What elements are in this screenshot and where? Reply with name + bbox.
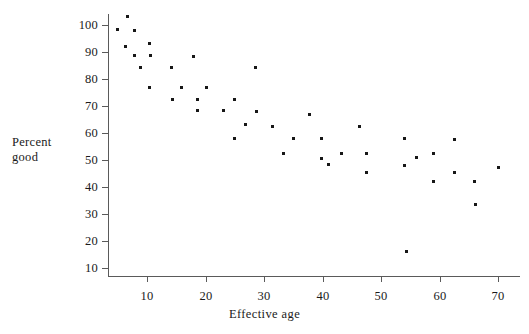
x-tick-label-text: 10 <box>141 289 154 303</box>
x-axis-line <box>108 276 520 277</box>
x-tick-label: 30 <box>244 286 284 300</box>
x-tick-label: 20 <box>186 286 226 300</box>
y-tick-mark <box>102 133 109 134</box>
y-tick-label: 80 <box>60 73 98 86</box>
y-tick-label: 40 <box>60 181 98 194</box>
data-point <box>320 157 323 160</box>
data-point <box>139 66 142 69</box>
y-tick-label: 30 <box>60 208 98 221</box>
scatter-plot-figure: 102030405060708090100 10203040506070 Per… <box>0 0 529 334</box>
data-point <box>453 138 456 141</box>
data-point <box>282 152 285 155</box>
x-tick-label-text: 60 <box>434 289 447 303</box>
x-tick-mark <box>381 276 382 282</box>
data-point <box>192 55 195 58</box>
y-tick-label: 70 <box>60 100 98 113</box>
data-point <box>171 98 174 101</box>
x-tick-label-text: 20 <box>200 289 213 303</box>
y-tick-label-text: 20 <box>64 235 98 248</box>
y-tick-mark <box>102 214 109 215</box>
y-tick-mark <box>102 160 109 161</box>
data-point <box>271 125 274 128</box>
x-tick-label: 10 <box>127 286 167 300</box>
x-tick-label-text: 70 <box>492 289 505 303</box>
data-point <box>126 15 129 18</box>
data-point <box>327 163 330 166</box>
data-point <box>453 171 456 174</box>
y-tick-mark <box>102 241 109 242</box>
x-tick-mark <box>323 276 324 282</box>
data-point <box>365 171 368 174</box>
data-point <box>222 109 225 112</box>
x-tick-mark <box>147 276 148 282</box>
data-point <box>403 137 406 140</box>
data-point <box>432 152 435 155</box>
y-tick-label-text: 30 <box>64 208 98 221</box>
x-tick-label-text: 30 <box>258 289 271 303</box>
y-tick-mark <box>102 52 109 53</box>
data-point <box>148 86 151 89</box>
y-tick-label-text: 90 <box>64 46 98 59</box>
x-tick-mark <box>206 276 207 282</box>
x-tick-label: 50 <box>361 286 401 300</box>
x-tick-mark <box>498 276 499 282</box>
y-tick-label: 100 <box>60 19 98 32</box>
plot-area: 102030405060708090100 10203040506070 Per… <box>0 0 529 334</box>
x-tick-label: 40 <box>303 286 343 300</box>
y-tick-mark <box>102 106 109 107</box>
x-tick-mark <box>264 276 265 282</box>
y-tick-label-text: 10 <box>64 262 98 275</box>
data-point <box>196 98 199 101</box>
y-tick-mark <box>102 268 109 269</box>
data-point <box>474 203 477 206</box>
y-tick-label-text: 70 <box>64 100 98 113</box>
data-point <box>415 156 418 159</box>
data-point <box>196 109 199 112</box>
data-point <box>405 250 408 253</box>
y-tick-label: 10 <box>60 262 98 275</box>
y-tick-mark <box>102 187 109 188</box>
data-point <box>403 164 406 167</box>
x-tick-mark <box>440 276 441 282</box>
data-point <box>308 113 311 116</box>
y-axis-title-line1: Percent <box>12 135 74 150</box>
y-tick-label: 20 <box>60 235 98 248</box>
data-point <box>254 66 257 69</box>
x-tick-label-text: 50 <box>375 289 388 303</box>
y-tick-label-text: 100 <box>64 19 98 32</box>
data-point <box>233 98 236 101</box>
data-point <box>133 54 136 57</box>
data-point <box>292 137 295 140</box>
data-point <box>149 54 152 57</box>
data-point <box>358 125 361 128</box>
y-tick-label-text: 80 <box>64 73 98 86</box>
data-point <box>233 137 236 140</box>
data-point <box>205 86 208 89</box>
y-axis-title-line2: good <box>12 150 74 165</box>
data-point <box>244 123 247 126</box>
y-tick-label-text: 40 <box>64 181 98 194</box>
y-tick-mark <box>102 25 109 26</box>
y-tick-label: 90 <box>60 46 98 59</box>
data-point <box>497 166 500 169</box>
data-point <box>180 86 183 89</box>
data-point <box>365 152 368 155</box>
y-tick-mark <box>102 79 109 80</box>
data-point <box>432 180 435 183</box>
y-axis-title: Percent good <box>12 135 74 165</box>
data-point <box>170 66 173 69</box>
data-point <box>133 29 136 32</box>
data-point <box>340 152 343 155</box>
data-point <box>116 28 119 31</box>
x-tick-label-text: 40 <box>317 289 330 303</box>
x-tick-label: 70 <box>478 286 518 300</box>
data-point <box>320 137 323 140</box>
y-axis-line <box>108 14 109 276</box>
x-axis-title: Effective age <box>0 307 529 322</box>
data-point <box>473 180 476 183</box>
data-point <box>148 42 151 45</box>
data-point <box>255 110 258 113</box>
data-point <box>124 45 127 48</box>
x-tick-label: 60 <box>420 286 460 300</box>
